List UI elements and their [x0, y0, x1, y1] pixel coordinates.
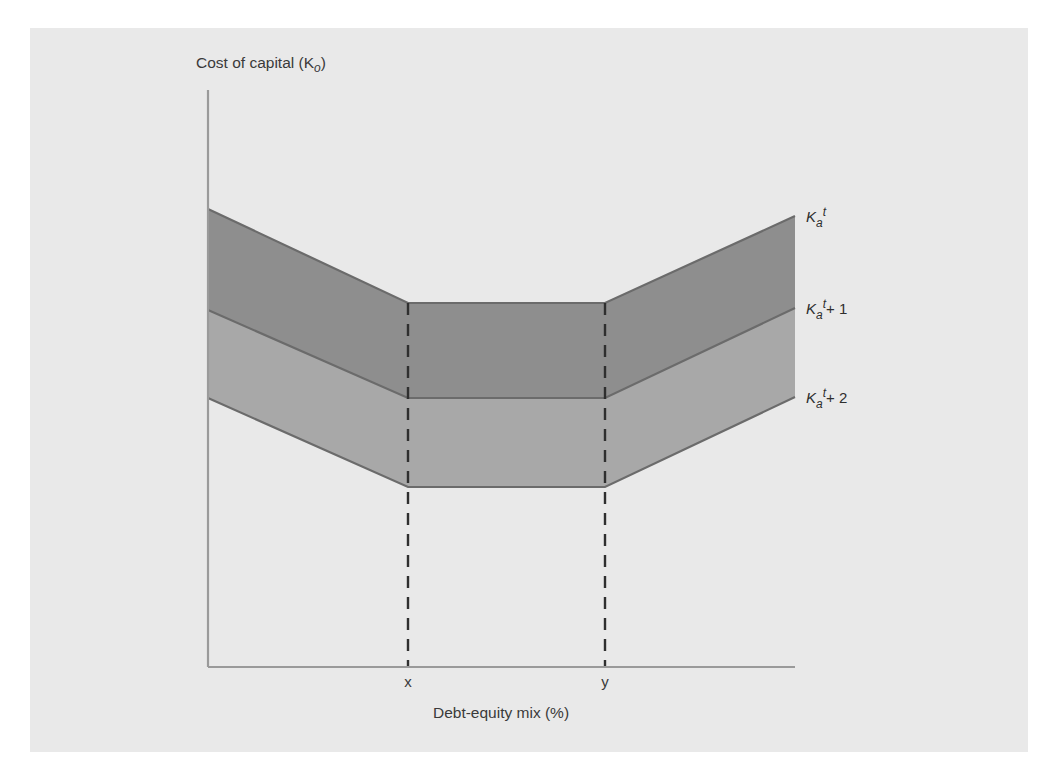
x-axis-title: Debt-equity mix (%) [433, 704, 569, 721]
chart-plot-area: Cost of capital (Ko) Debt-equity mix (%)… [0, 0, 1051, 775]
y-axis-title: Cost of capital (Ko) [196, 54, 326, 75]
y-tick-label-y: y [601, 673, 609, 690]
curve-label-ka-t: Kat [806, 205, 827, 230]
curve-label-ka-t-plus-2: Kat+ 2 [806, 386, 847, 411]
x-tick-label-x: x [404, 673, 412, 690]
curve-label-ka-t-plus-1: Kat+ 1 [806, 297, 847, 322]
figure-container: Cost of capital (Ko) Debt-equity mix (%)… [0, 0, 1051, 775]
